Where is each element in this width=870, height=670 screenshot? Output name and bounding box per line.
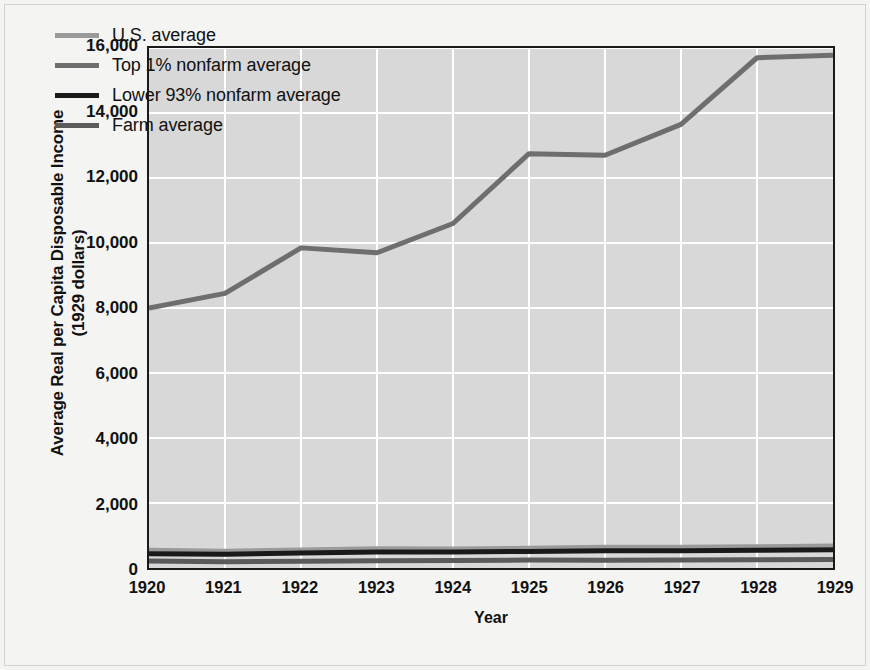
legend-item-label: Farm average: [112, 115, 223, 136]
legend-swatch-icon: [55, 93, 99, 98]
legend-item: U.S. average: [55, 20, 341, 50]
series-line-3: [149, 559, 833, 561]
chart-legend: U.S. averageTop 1% nonfarm averageLower …: [55, 20, 341, 140]
legend-item-label: U.S. average: [112, 25, 216, 46]
legend-item: Lower 93% nonfarm average: [55, 80, 341, 110]
figure: Average Real per Capita Disposable Incom…: [0, 0, 870, 670]
y-axis-title-line1: Average Real per Capita Disposable Incom…: [48, 110, 67, 456]
legend-item: Farm average: [55, 110, 341, 140]
legend-item: Top 1% nonfarm average: [55, 50, 341, 80]
legend-item-label: Top 1% nonfarm average: [112, 55, 311, 76]
legend-swatch-icon: [55, 63, 99, 68]
legend-swatch-icon: [55, 33, 99, 38]
legend-item-label: Lower 93% nonfarm average: [112, 85, 341, 106]
x-axis-title: Year: [147, 609, 835, 627]
legend-swatch-icon: [55, 123, 99, 128]
